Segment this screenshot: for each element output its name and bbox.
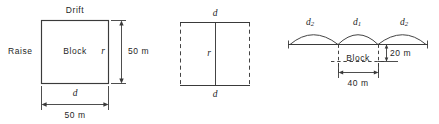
plan-view-height-dimension — [111, 21, 126, 84]
elevation-block-label: Block — [346, 54, 370, 63]
elevation-arch-left-label: d2 — [306, 18, 314, 28]
plan-view-drift-label: Drift — [66, 6, 84, 15]
elevation-width-dimension-label: 40 m — [347, 79, 368, 88]
elevation-arch-center-label: d1 — [353, 18, 361, 28]
plan-view-width-symbol: d — [73, 89, 78, 99]
arch-right — [378, 35, 426, 45]
engineering-diagram — [0, 0, 439, 124]
plan-view-height-dimension-label: 50 m — [128, 47, 149, 56]
elevation-arch-right-label: d2 — [400, 18, 408, 28]
middle-view-group — [180, 23, 250, 86]
arch-left-subscript: 2 — [311, 20, 314, 27]
elevation-width-dimension — [339, 63, 379, 78]
arch-left — [290, 35, 338, 45]
middle-view-center-symbol: r — [207, 49, 211, 59]
middle-view-bottom-symbol: d — [213, 90, 218, 100]
middle-view-top-symbol: d — [213, 9, 218, 19]
plan-view-height-symbol: r — [101, 47, 105, 57]
arch-right-subscript: 2 — [405, 20, 408, 27]
elevation-height-dimension-label: 20 m — [390, 49, 411, 58]
arch-center-subscript: 1 — [358, 20, 361, 27]
plan-view-group — [42, 21, 127, 111]
plan-view-width-dimension-label: 50 m — [64, 111, 85, 120]
plan-view-block-label: Block — [63, 47, 87, 56]
arch-center — [338, 35, 378, 45]
plan-view-raise-label: Raise — [8, 47, 32, 56]
